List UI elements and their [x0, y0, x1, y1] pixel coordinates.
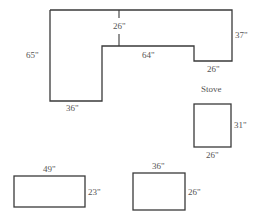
table-left-height-label: 23"	[88, 187, 101, 197]
counter-inner-length-label: 64"	[142, 50, 155, 60]
kitchen-diagram: 65" 36" 26" 64" 37" 26" Stove 31" 26" 49…	[0, 0, 259, 224]
stove-title: Stove	[201, 84, 222, 94]
counter-left-height-label: 65"	[26, 50, 39, 60]
counter-depth-label: 26"	[113, 21, 126, 31]
counter-right-step-label: 26"	[207, 64, 220, 74]
counter-right-height-label: 37"	[235, 30, 248, 40]
stove-height-label: 31"	[234, 120, 247, 130]
stove-width-label: 26"	[206, 150, 219, 160]
table-right-width-label: 36"	[152, 161, 165, 171]
stove-outline	[194, 104, 231, 147]
table-right-height-label: 26"	[188, 187, 201, 197]
table-left-outline	[14, 176, 85, 207]
table-right-outline	[133, 173, 185, 210]
counter-bottom-width-label: 36"	[66, 103, 79, 113]
table-left-width-label: 49"	[43, 164, 56, 174]
